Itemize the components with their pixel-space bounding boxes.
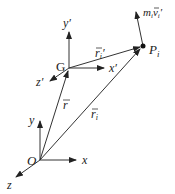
diagram-canvas: O x y z G x′ y′ z′ Pi r ri ri′ mivi′ — [0, 0, 175, 194]
label-z: z — [6, 178, 12, 192]
label-y-prime: y′ — [62, 16, 71, 30]
labels: O x y z G x′ y′ z′ Pi r ri ri′ mivi′ — [6, 6, 163, 192]
label-G: G — [56, 59, 65, 74]
label-r-i-prime: ri′ — [95, 46, 105, 61]
label-momentum: mivi′ — [143, 6, 163, 20]
r-i-vector — [40, 49, 140, 160]
r-bar-vector — [40, 71, 68, 160]
label-x-prime: x′ — [108, 61, 117, 75]
label-O: O — [27, 153, 37, 168]
label-z-prime: z′ — [35, 75, 44, 89]
svg-text:mivi′: mivi′ — [143, 6, 163, 20]
label-x: x — [81, 153, 88, 167]
label-r-i: ri — [91, 107, 98, 122]
momentum-vector — [136, 12, 143, 46]
label-P-i: Pi — [148, 42, 160, 59]
label-y: y — [28, 113, 35, 127]
vectors — [40, 12, 143, 160]
point-P-i — [141, 44, 146, 49]
